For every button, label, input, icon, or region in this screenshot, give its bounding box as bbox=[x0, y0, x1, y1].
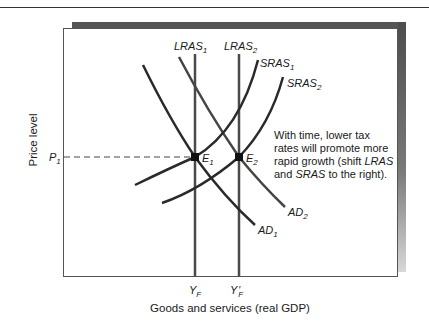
frame-shadow-top bbox=[72, 22, 406, 29]
svg-text:With time, lower tax: With time, lower tax bbox=[274, 129, 370, 141]
yf-prime-tick-label: Y'F bbox=[230, 284, 244, 299]
aggregate-supply-demand-diagram: LRAS1 LRAS2 SRAS1 SRAS2 AD1 AD2 E1 E2 P1… bbox=[0, 0, 429, 325]
svg-text:rapid growth (shift LRAS: rapid growth (shift LRAS bbox=[274, 155, 394, 167]
y-axis-label: Price level bbox=[27, 113, 39, 166]
x-axis-label: Goods and services (real GDP) bbox=[150, 302, 310, 314]
p1-tick-label: P1 bbox=[49, 151, 61, 166]
frame-shadow-right bbox=[398, 22, 406, 272]
svg-text:rates will promote more: rates will promote more bbox=[274, 142, 388, 154]
e2-point bbox=[235, 153, 243, 161]
yf-tick-label: YF bbox=[189, 284, 202, 299]
svg-text:and SRAS to the right).: and SRAS to the right). bbox=[274, 168, 387, 180]
e1-point bbox=[191, 153, 199, 161]
